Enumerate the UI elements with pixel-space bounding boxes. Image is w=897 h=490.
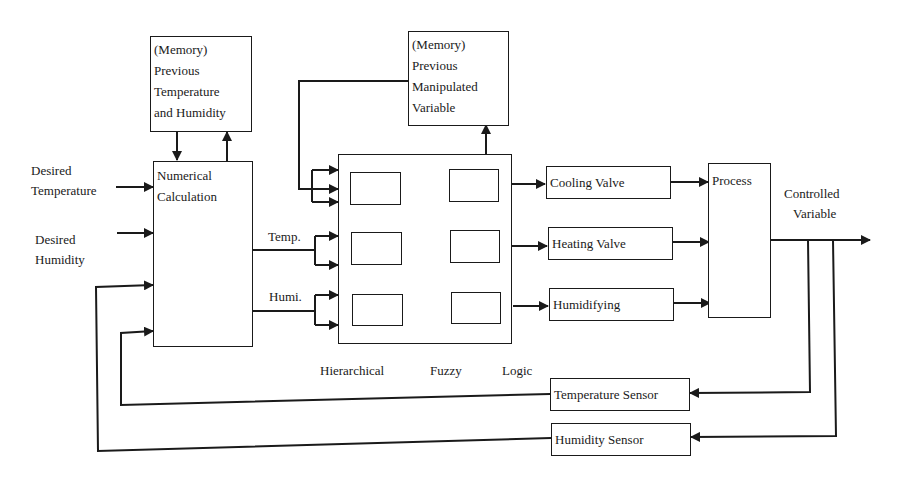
fuzzy-output-node-3 bbox=[451, 292, 501, 324]
humidifying-label: Humidifying bbox=[553, 296, 620, 313]
temperature-sensor-block: Temperature Sensor bbox=[550, 378, 690, 411]
humidity-sensor-block: Humidity Sensor bbox=[551, 423, 691, 456]
heating-valve-block: Heating Valve bbox=[548, 227, 673, 260]
desired-humidity-label-2: Humidity bbox=[35, 251, 85, 268]
numerical-line-1: Numerical bbox=[157, 167, 212, 184]
fuzzy-input-node-2 bbox=[351, 232, 402, 265]
memory-manip-line-4: Variable bbox=[412, 99, 455, 116]
desired-humidity-label-1: Desired bbox=[35, 231, 75, 248]
memory-temperature-humidity-block: (Memory) Previous Temperature and Humidi… bbox=[150, 36, 252, 132]
controlled-variable-label-2: Variable bbox=[793, 205, 836, 222]
memory-temp-line-2: Previous bbox=[154, 62, 200, 79]
memory-manip-line-2: Previous bbox=[412, 57, 458, 74]
desired-temperature-label-2: Temperature bbox=[31, 182, 97, 199]
fuzzy-input-node-1 bbox=[350, 172, 401, 205]
controlled-variable-label-1: Controlled bbox=[784, 185, 840, 202]
temp-signal-label: Temp. bbox=[268, 228, 301, 245]
fuzzy-output-node-1 bbox=[449, 169, 499, 202]
memory-temp-line-1: (Memory) bbox=[154, 41, 207, 58]
temperature-sensor-label: Temperature Sensor bbox=[554, 386, 658, 403]
numerical-calculation-block: Numerical Calculation bbox=[153, 161, 253, 347]
cooling-valve-block: Cooling Valve bbox=[546, 166, 671, 199]
memory-temp-line-3: Temperature bbox=[154, 83, 220, 100]
fuzzy-caption-fuzzy: Fuzzy bbox=[430, 362, 462, 379]
memory-manip-line-3: Manipulated bbox=[412, 78, 478, 95]
numerical-line-2: Calculation bbox=[157, 188, 217, 205]
process-block: Process bbox=[708, 163, 771, 318]
humidity-sensor-label: Humidity Sensor bbox=[555, 431, 643, 448]
desired-temperature-label-1: Desired bbox=[31, 162, 71, 179]
memory-temp-line-4: and Humidity bbox=[154, 104, 226, 121]
memory-manipulated-variable-block: (Memory) Previous Manipulated Variable bbox=[408, 31, 509, 126]
fuzzy-output-node-2 bbox=[450, 230, 500, 263]
process-label: Process bbox=[712, 172, 752, 189]
humidifying-block: Humidifying bbox=[549, 288, 674, 321]
heating-valve-label: Heating Valve bbox=[552, 235, 626, 252]
fuzzy-caption-hierarchical: Hierarchical bbox=[320, 362, 384, 379]
memory-manip-line-1: (Memory) bbox=[412, 36, 465, 53]
fuzzy-input-node-3 bbox=[352, 294, 403, 326]
cooling-valve-label: Cooling Valve bbox=[550, 174, 625, 191]
fuzzy-caption-logic: Logic bbox=[502, 362, 532, 379]
humi-signal-label: Humi. bbox=[269, 288, 302, 305]
